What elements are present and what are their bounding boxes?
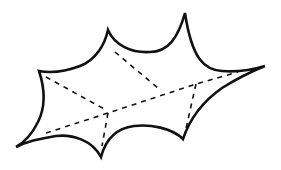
dashed-line-long-diagonal: [46, 72, 238, 133]
holly-leaf-diagram: [0, 0, 281, 170]
dashed-line-right-bottom: [185, 84, 196, 133]
dashed-line-top-left: [115, 52, 158, 88]
dashed-line-upper-left: [46, 77, 106, 110]
leaf-outline: [16, 13, 265, 157]
